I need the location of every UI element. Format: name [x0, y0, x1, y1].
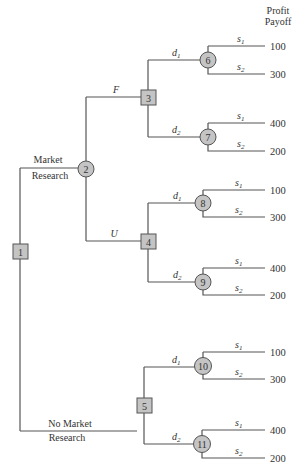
- svg-text:s2: s2: [237, 61, 245, 74]
- payoff-9-s1: 400: [270, 263, 286, 274]
- chance-node-2: 2: [78, 161, 94, 177]
- chance-node-6: 6: [200, 52, 216, 68]
- label-no-research: Research: [49, 432, 86, 443]
- label-d2-node3: d2: [172, 124, 181, 137]
- decision-tree: Profit Payoff Market Research No Market …: [0, 0, 297, 465]
- chance-node-11: 11: [194, 436, 211, 453]
- svg-text:d1: d1: [172, 47, 181, 60]
- label-s2-node10: s2: [235, 366, 243, 379]
- svg-text:s2: s2: [235, 366, 243, 379]
- chance-node-7: 7: [200, 129, 216, 145]
- label-s1-node9: s1: [235, 255, 242, 268]
- svg-text:9: 9: [201, 277, 206, 288]
- decision-node-1: 1: [13, 244, 28, 259]
- label-d1-node5: d1: [172, 354, 181, 367]
- svg-text:5: 5: [142, 401, 147, 412]
- payoff-6-s2: 300: [270, 69, 286, 80]
- label-favorable: F: [112, 84, 120, 95]
- branch-9-outcomes: [203, 268, 265, 295]
- payoff-6-s1: 100: [270, 41, 286, 52]
- payoff-8-s2: 300: [270, 212, 286, 223]
- branch-11-outcomes: [202, 430, 265, 458]
- svg-text:s2: s2: [237, 138, 245, 151]
- label-s2-node11: s2: [235, 445, 243, 458]
- label-d1-node4: d1: [173, 190, 182, 203]
- svg-text:d2: d2: [173, 269, 182, 282]
- chance-node-10: 10: [195, 358, 212, 375]
- label-s2-node9: s2: [235, 282, 243, 295]
- label-s2-node7: s2: [237, 138, 245, 151]
- label-research: Research: [32, 170, 69, 181]
- payoff-7-s1: 400: [270, 118, 286, 129]
- payoff-7-s2: 200: [270, 146, 286, 157]
- svg-text:1: 1: [18, 247, 23, 258]
- label-s1-node11: s1: [235, 417, 242, 430]
- svg-text:s1: s1: [235, 339, 242, 352]
- label-s1-node7: s1: [237, 110, 244, 123]
- label-d2-node4: d2: [173, 269, 182, 282]
- svg-text:d2: d2: [172, 431, 181, 444]
- svg-text:d1: d1: [173, 190, 182, 203]
- svg-text:2: 2: [84, 164, 89, 175]
- payoff-10-s2: 300: [270, 374, 286, 385]
- payoff-8-s1: 100: [270, 185, 286, 196]
- svg-text:d1: d1: [172, 354, 181, 367]
- chance-node-9: 9: [195, 274, 211, 290]
- svg-text:11: 11: [197, 439, 207, 450]
- svg-text:s1: s1: [235, 255, 242, 268]
- svg-text:8: 8: [201, 198, 206, 209]
- payoff-header: Payoff: [265, 16, 292, 27]
- payoff-11-s1: 400: [270, 425, 286, 436]
- label-s2-node8: s2: [235, 204, 243, 217]
- svg-text:3: 3: [146, 93, 151, 104]
- svg-text:s1: s1: [235, 177, 242, 190]
- payoff-10-s1: 100: [270, 347, 286, 358]
- payoff-11-s2: 200: [270, 453, 286, 464]
- label-market: Market: [34, 154, 63, 165]
- label-s1-node10: s1: [235, 339, 242, 352]
- svg-text:6: 6: [206, 55, 211, 66]
- svg-text:d2: d2: [172, 124, 181, 137]
- label-s1-node8: s1: [235, 177, 242, 190]
- branch-8-outcomes: [203, 190, 265, 217]
- decision-node-5: 5: [137, 398, 152, 413]
- profit-header: Profit: [267, 5, 290, 16]
- svg-text:10: 10: [198, 361, 208, 372]
- svg-text:s1: s1: [237, 110, 244, 123]
- svg-text:s2: s2: [235, 204, 243, 217]
- chance-node-8: 8: [195, 195, 211, 211]
- svg-text:4: 4: [146, 237, 151, 248]
- label-d2-node5: d2: [172, 431, 181, 444]
- svg-text:s1: s1: [235, 417, 242, 430]
- label-d1-node3: d1: [172, 47, 181, 60]
- svg-text:s1: s1: [237, 33, 244, 46]
- label-s2-node6: s2: [237, 61, 245, 74]
- svg-text:s2: s2: [235, 445, 243, 458]
- label-s1-node6: s1: [237, 33, 244, 46]
- payoff-9-s2: 200: [270, 290, 286, 301]
- svg-text:7: 7: [206, 132, 211, 143]
- decision-node-4: 4: [141, 234, 156, 249]
- label-unfavorable: U: [110, 228, 118, 239]
- svg-text:s2: s2: [235, 282, 243, 295]
- label-no-market: No Market: [48, 418, 92, 429]
- branch-10-outcomes: [203, 352, 265, 379]
- decision-node-3: 3: [141, 90, 156, 105]
